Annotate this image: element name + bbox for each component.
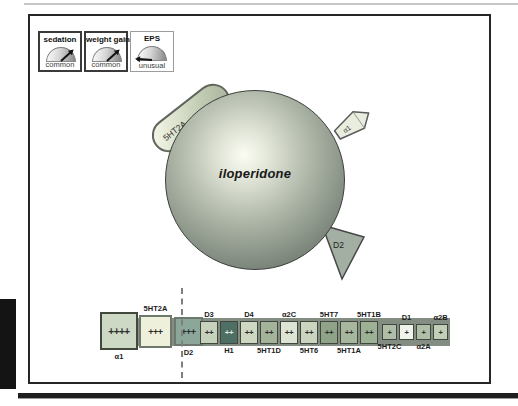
affinity-value: ++++: [108, 326, 129, 337]
affinity-value: ++: [345, 328, 353, 337]
affinity-value: +: [405, 328, 409, 337]
gauge-frequency: common: [86, 60, 126, 69]
d2-alignment-dashed-line: [181, 288, 183, 378]
receptor-label: 5HT7: [320, 310, 338, 319]
gauge-sedation: sedation common: [38, 31, 82, 72]
gauge-title: EPS: [131, 34, 173, 43]
receptor-affinity-box: +++ 5HT2A: [139, 315, 172, 348]
receptor-affinity-box: ++ 5HT1D: [260, 321, 278, 344]
receptor-affinity-box: ++++ α1: [100, 312, 138, 350]
receptor-affinity-box: + α2A: [416, 324, 431, 340]
receptor-label: α1: [115, 352, 124, 361]
affinity-value: ++: [245, 328, 253, 337]
receptor-affinity-box: +++ D2: [174, 317, 203, 346]
affinity-value: ++: [225, 328, 233, 337]
receptor-label: 5HT1B: [357, 310, 381, 319]
receptor-label: 5HT2A: [144, 304, 168, 313]
receptor-label: D2: [184, 348, 194, 357]
gauge-frequency: common: [40, 60, 80, 69]
gauge-title: sedation: [40, 35, 80, 44]
receptor-affinity-box: ++ H1: [220, 321, 238, 344]
affinity-value: +: [388, 328, 392, 337]
receptor-affinity-box: + α2B: [433, 324, 448, 340]
receptor-affinity-box: ++ 5HT1B: [360, 321, 378, 344]
receptor-label: 5HT1D: [257, 346, 281, 355]
page-left-black-bar: [0, 299, 16, 389]
affinity-value: +: [439, 328, 443, 337]
affinity-value: ++: [365, 328, 373, 337]
receptor-label: 5HT2C: [378, 342, 402, 351]
gauge-eps: EPS unusual: [130, 31, 174, 72]
receptor-label: D4: [244, 310, 254, 319]
affinity-value: ++: [205, 328, 213, 337]
receptor-tab-label: D2: [333, 240, 344, 250]
affinity-value: ++: [265, 328, 273, 337]
receptor-affinity-box: ++ D4: [240, 321, 258, 344]
gauge-weight-gain: weight gain common: [84, 31, 128, 72]
receptor-affinity-box: ++ D3: [200, 321, 218, 344]
figure-canvas: sedation common weight gain common EPS u…: [0, 0, 518, 406]
receptor-label: D1: [402, 313, 412, 322]
affinity-value: ++: [325, 328, 333, 337]
receptor-affinity-box: + D1: [399, 324, 414, 340]
receptor-affinity-box: ++ 5HT7: [320, 321, 338, 344]
receptor-label: H1: [224, 346, 234, 355]
receptor-label: α2C: [282, 310, 296, 319]
affinity-value: ++: [305, 328, 313, 337]
page-bottom-black-bar: [18, 393, 518, 399]
receptor-affinity-box: ++ 5HT1A: [340, 321, 358, 344]
receptor-label: D3: [204, 310, 214, 319]
receptor-affinity-box: ++ α2C: [280, 321, 298, 344]
gauge-title: weight gain: [86, 35, 126, 44]
affinity-value: ++: [285, 328, 293, 337]
receptor-label: α2A: [416, 342, 430, 351]
page-top-edge-line: [24, 3, 518, 5]
receptor-affinity-box: ++ 5HT6: [300, 321, 318, 344]
drug-name: iloperidone: [165, 166, 345, 181]
affinity-value: +: [422, 328, 426, 337]
affinity-value: +++: [181, 327, 195, 337]
receptor-affinity-box: + 5HT2C: [382, 324, 397, 340]
gauge-frequency: unusual: [131, 61, 173, 70]
receptor-label: 5HT6: [300, 346, 318, 355]
receptor-label: α2B: [433, 313, 447, 322]
receptor-label: 5HT1A: [337, 346, 361, 355]
affinity-value: +++: [148, 327, 162, 337]
